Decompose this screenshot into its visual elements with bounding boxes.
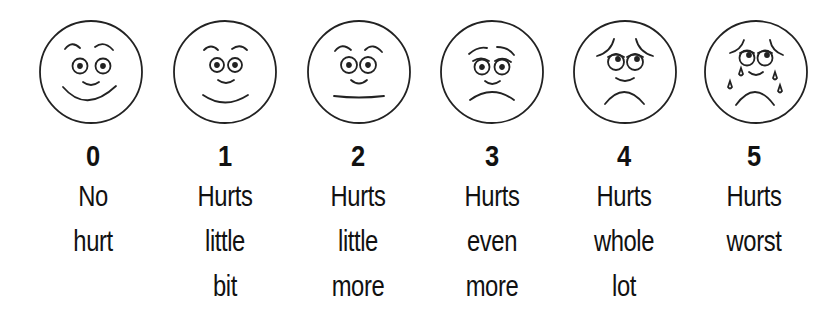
scale-item-1: 1 Hurts little bit (160, 138, 290, 309)
pain-rating-scale: 0 No hurt 1 Hurts little bit 2 Hurts lit… (0, 0, 835, 336)
description-line: more (439, 264, 546, 309)
scale-item-4: 4 Hurts whole lot (559, 138, 689, 309)
description-line: worst (701, 219, 808, 264)
description-line: Hurts (172, 174, 279, 219)
sad-face-icon (574, 21, 676, 123)
smiling-face-icon (40, 21, 142, 123)
description-line: hurt (40, 219, 147, 264)
description-line: even (439, 219, 546, 264)
description-line: little (305, 219, 412, 264)
score-label: 0 (38, 138, 149, 174)
scale-item-3: 3 Hurts even more (427, 138, 557, 309)
scale-item-5: 5 Hurts worst (689, 138, 819, 264)
scale-item-2: 2 Hurts little more (293, 138, 423, 309)
score-label: 1 (170, 138, 281, 174)
crying-face-icon (705, 21, 807, 123)
description-line: whole (571, 219, 678, 264)
description-line: more (305, 264, 412, 309)
description-line: Hurts (571, 174, 678, 219)
faces-row (0, 0, 835, 140)
description-line: Hurts (701, 174, 808, 219)
score-label: 3 (437, 138, 548, 174)
description-line: bit (172, 264, 279, 309)
description-line: lot (571, 264, 678, 309)
frowning-face-icon (441, 21, 543, 123)
description-line: No (40, 174, 147, 219)
score-label: 4 (569, 138, 680, 174)
slight-smile-face-icon (174, 21, 276, 123)
description-line: little (172, 219, 279, 264)
scale-item-0: 0 No hurt (28, 138, 158, 264)
score-label: 2 (303, 138, 414, 174)
neutral-face-icon (308, 21, 410, 123)
description-line: Hurts (305, 174, 412, 219)
description-line: Hurts (439, 174, 546, 219)
score-label: 5 (699, 138, 810, 174)
